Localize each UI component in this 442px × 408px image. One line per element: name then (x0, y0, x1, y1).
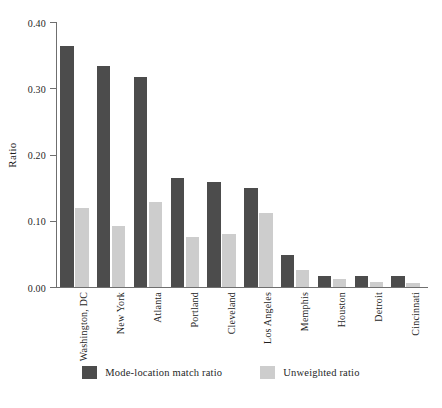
y-tick-label: 0.30 (28, 83, 46, 94)
bar-unweighted-ratio[interactable] (370, 282, 384, 287)
x-axis-line (56, 287, 428, 288)
legend-swatch-light (260, 366, 275, 379)
bar-unweighted-ratio[interactable] (75, 208, 89, 288)
bar-unweighted-ratio[interactable] (112, 226, 126, 287)
y-axis-title: Ratio (6, 142, 18, 167)
x-tick-label: Houston (336, 292, 347, 327)
x-tick-label: Cleveland (226, 292, 237, 334)
bar-mode-location-match-ratio[interactable] (355, 276, 369, 287)
bar-group (318, 22, 347, 287)
bar-group (355, 22, 384, 287)
bar-mode-location-match-ratio[interactable] (97, 66, 111, 287)
x-tick-label: Atlanta (152, 292, 163, 323)
x-tick-label: Washington, DC (78, 292, 89, 361)
legend-item[interactable]: Mode-location match ratio (82, 366, 222, 379)
legend-label: Mode-location match ratio (105, 367, 222, 378)
bar-unweighted-ratio[interactable] (186, 237, 200, 287)
bar-unweighted-ratio[interactable] (406, 283, 420, 287)
bar-chart-figure: Ratio 0.000.100.200.300.40 Washington, D… (0, 0, 442, 408)
y-tick: 0.30 (50, 88, 56, 89)
bar-mode-location-match-ratio[interactable] (281, 255, 295, 287)
bar-unweighted-ratio[interactable] (259, 213, 273, 287)
bar-group (97, 22, 126, 287)
x-tick-label: Portland (189, 292, 200, 328)
bar-mode-location-match-ratio[interactable] (60, 46, 74, 287)
bar-mode-location-match-ratio[interactable] (134, 77, 148, 287)
y-tick: 0.20 (50, 155, 56, 156)
x-tick-label: Detroit (373, 292, 384, 322)
bar-mode-location-match-ratio[interactable] (391, 276, 405, 287)
bar-mode-location-match-ratio[interactable] (171, 178, 185, 287)
plot-area (57, 22, 425, 287)
legend-label: Unweighted ratio (283, 367, 359, 378)
bar-mode-location-match-ratio[interactable] (244, 188, 258, 287)
y-tick-label: 0.00 (28, 282, 46, 293)
bar-unweighted-ratio[interactable] (149, 202, 163, 287)
y-tick: 0.10 (50, 221, 56, 222)
legend-swatch-dark (82, 366, 97, 379)
bar-group (281, 22, 310, 287)
bar-group (244, 22, 273, 287)
bar-group (207, 22, 236, 287)
x-tick-label: Memphis (299, 292, 310, 331)
bar-unweighted-ratio[interactable] (333, 279, 347, 287)
bar-group (391, 22, 420, 287)
legend-item[interactable]: Unweighted ratio (260, 366, 359, 379)
bar-mode-location-match-ratio[interactable] (318, 276, 332, 287)
bar-mode-location-match-ratio[interactable] (207, 182, 221, 287)
bar-group (134, 22, 163, 287)
chart-legend: Mode-location match ratioUnweighted rati… (0, 366, 442, 379)
bar-group (171, 22, 200, 287)
y-tick-label: 0.10 (28, 216, 46, 227)
y-tick: 0.40 (50, 22, 56, 23)
x-tick-label: Los Angeles (262, 292, 273, 344)
bar-unweighted-ratio[interactable] (222, 234, 236, 287)
bar-unweighted-ratio[interactable] (296, 270, 310, 287)
y-tick-label: 0.40 (28, 17, 46, 28)
y-tick: 0.00 (50, 287, 56, 288)
x-tick-label: Cincinnati (410, 292, 421, 336)
x-tick-label: New York (115, 292, 126, 334)
y-tick-label: 0.20 (28, 150, 46, 161)
bar-group (60, 22, 89, 287)
